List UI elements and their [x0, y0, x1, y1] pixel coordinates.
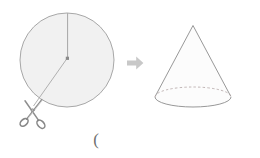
scissors-handle-left [19, 117, 30, 128]
circle-group [20, 13, 114, 107]
circle-to-cone-figure [0, 0, 260, 158]
caption-paren-mark: ( [88, 128, 104, 152]
transform-arrow [127, 57, 143, 70]
scissors-handle-right [35, 119, 46, 130]
diagram-canvas: ( [0, 0, 260, 158]
circle-shape [20, 13, 114, 107]
scissors-pivot [31, 109, 34, 112]
cone-body-fill [155, 26, 231, 108]
cone-group [155, 26, 231, 108]
circle-center-dot [66, 57, 69, 60]
right-arrow-icon [127, 57, 143, 70]
scissors-icon [19, 100, 47, 130]
